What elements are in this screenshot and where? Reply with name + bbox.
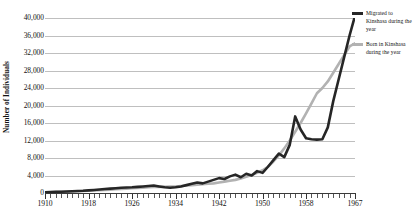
x-axis-tick: [99, 194, 100, 198]
x-axis-tick: [143, 194, 144, 198]
x-axis-tick: [197, 194, 198, 198]
y-axis-tick-label: 12,000: [24, 137, 44, 144]
x-axis-tick: [333, 194, 334, 198]
y-axis-title-text: Number of Individuals: [3, 61, 11, 133]
y-axis-tick-label: 0: [40, 189, 44, 196]
x-axis-tick: [284, 194, 285, 198]
x-axis-tick: [181, 194, 182, 198]
plot-area: [45, 18, 355, 193]
x-axis-tick: [295, 194, 296, 198]
x-axis-tick: [148, 194, 149, 198]
x-axis-tick: [83, 194, 84, 198]
legend-swatch-born: [352, 43, 363, 46]
x-axis-tick-label: 1942: [211, 199, 226, 208]
x-axis-tick-label: 1967: [347, 199, 362, 208]
x-axis-tick: [121, 194, 122, 198]
x-axis-tick-label: 1934: [168, 199, 183, 208]
x-axis-tick: [137, 194, 138, 198]
x-axis-tick-label: 1910: [37, 199, 52, 208]
x-axis-tick: [235, 194, 236, 198]
x-axis-tick: [268, 194, 269, 198]
x-axis-tick: [273, 194, 274, 198]
legend-label-born: Born in Kinshasa during the year: [366, 40, 415, 56]
x-axis-tick: [230, 194, 231, 198]
x-axis-tick: [241, 194, 242, 198]
x-axis-tick: [127, 194, 128, 198]
y-axis-title: Number of Individuals: [0, 0, 15, 193]
legend-swatch-migrated: [352, 12, 363, 15]
x-axis-tick: [224, 194, 225, 198]
x-axis-tick: [311, 194, 312, 198]
x-axis-tick: [350, 194, 351, 198]
x-axis-tick: [290, 194, 291, 198]
x-axis-tick: [154, 194, 155, 198]
x-axis-tick: [45, 194, 46, 199]
x-axis-tick: [214, 194, 215, 198]
x-axis-tick: [61, 194, 62, 198]
series-line: [45, 18, 355, 192]
x-axis-tick-label: 1918: [81, 199, 96, 208]
x-axis-tick: [306, 194, 307, 199]
x-axis-tick: [78, 194, 79, 198]
x-axis-tick: [94, 194, 95, 198]
x-axis-tick: [192, 194, 193, 198]
x-axis-tick: [89, 194, 90, 199]
x-axis-tick-label: 1926: [124, 199, 139, 208]
x-axis-tick: [322, 194, 323, 198]
y-axis-tick-label: 36,000: [24, 32, 44, 39]
x-axis-tick: [132, 194, 133, 199]
x-axis-tick: [110, 194, 111, 198]
x-axis-tick: [252, 194, 253, 198]
x-axis-tick: [203, 194, 204, 198]
x-axis-tick: [279, 194, 280, 198]
x-axis-tick: [50, 194, 51, 198]
x-axis-tick: [246, 194, 247, 198]
series-line: [45, 43, 355, 192]
y-axis-tick-label: 32,000: [24, 49, 44, 56]
y-axis-tick-label: 8,000: [27, 154, 44, 161]
x-axis-tick: [219, 194, 220, 199]
x-axis-tick: [105, 194, 106, 198]
y-axis-tick-label: 28,000: [24, 67, 44, 74]
x-axis-tick: [339, 194, 340, 198]
y-axis-tick-label: 4,000: [27, 172, 44, 179]
x-axis-tick: [301, 194, 302, 198]
x-axis-tick: [355, 194, 356, 199]
y-axis-tick-label: 24,000: [24, 84, 44, 91]
x-axis-ticks: [45, 194, 356, 198]
y-axis-tick-label: 20,000: [24, 102, 44, 109]
x-axis-tick: [67, 194, 68, 198]
x-axis-tick: [176, 194, 177, 199]
x-axis-tick: [186, 194, 187, 198]
chart-container: Number of Individuals 40,00036,00032,000…: [0, 0, 415, 221]
x-axis-tick: [56, 194, 57, 198]
x-axis-tick: [72, 194, 73, 198]
x-axis-tick-label: 1950: [255, 199, 270, 208]
x-axis-tick: [170, 194, 171, 198]
x-axis-tick-labels: 19101918192619341942195019581967: [45, 199, 356, 213]
y-axis-tick-label: 40,000: [24, 14, 44, 21]
x-axis-tick: [116, 194, 117, 198]
x-axis-tick: [257, 194, 258, 198]
legend-label-migrated: Migrated to Kinshasa during the year: [366, 9, 415, 33]
legend-item-born: Born in Kinshasa during the year: [352, 40, 415, 56]
y-axis-tick-labels: 40,00036,00032,00028,00024,00020,00016,0…: [16, 0, 44, 200]
x-axis-tick: [263, 194, 264, 199]
legend: Migrated to Kinshasa during the year Bor…: [352, 9, 415, 64]
series-lines: [45, 18, 355, 193]
y-axis-tick-label: 16,000: [24, 119, 44, 126]
x-axis-tick: [159, 194, 160, 198]
x-axis-tick-label: 1958: [298, 199, 313, 208]
x-axis-tick: [328, 194, 329, 198]
x-axis-tick: [344, 194, 345, 198]
x-axis-tick: [165, 194, 166, 198]
x-axis-tick: [317, 194, 318, 198]
legend-item-migrated: Migrated to Kinshasa during the year: [352, 9, 415, 33]
x-axis-tick: [208, 194, 209, 198]
